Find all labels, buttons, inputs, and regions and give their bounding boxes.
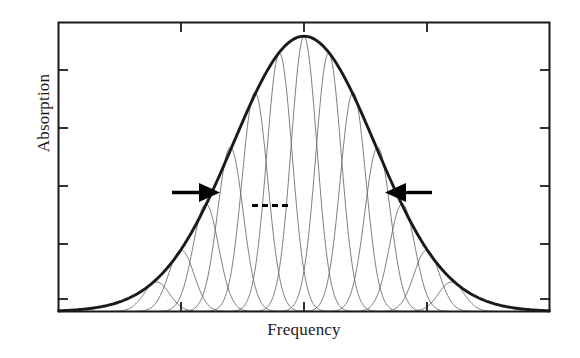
x-axis-label: Frequency — [58, 320, 550, 340]
y-axis-label: Absorption — [34, 0, 54, 258]
absorption-frequency-figure — [0, 0, 580, 358]
